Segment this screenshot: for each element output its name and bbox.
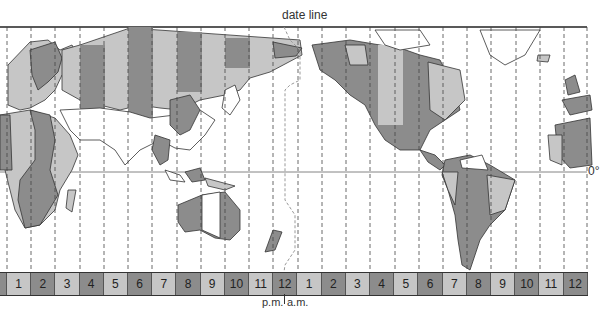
new-guinea xyxy=(205,178,235,190)
pm-am-divider xyxy=(284,294,285,304)
hour-cell: 9 xyxy=(201,273,225,295)
hour-cell: 5 xyxy=(394,273,418,295)
time-zone-map xyxy=(0,0,611,313)
hour-cell: 12 xyxy=(564,273,588,295)
eastern-canada xyxy=(428,62,465,120)
hour-cell: 5 xyxy=(104,273,128,295)
hour-cell: 11 xyxy=(249,273,273,295)
southeast-asia xyxy=(152,135,170,165)
zone-band xyxy=(128,27,153,127)
hour-cell: 7 xyxy=(443,273,467,295)
hour-cell: 4 xyxy=(370,273,394,295)
hour-cell: 4 xyxy=(80,273,104,295)
new-zealand xyxy=(265,230,282,252)
hour-cell: 10 xyxy=(225,273,249,295)
europe-east-edge xyxy=(562,95,592,115)
greenland xyxy=(480,30,540,65)
hour-cell: 1 xyxy=(297,273,321,295)
zone-band xyxy=(225,38,250,68)
zone-band xyxy=(378,45,403,125)
date-line-label: date line xyxy=(282,8,327,22)
hour-cell: 8 xyxy=(176,273,200,295)
landmasses xyxy=(0,27,592,270)
hour-cell: 6 xyxy=(128,273,152,295)
south-america-west xyxy=(442,172,458,205)
hour-cell: 10 xyxy=(515,273,539,295)
equator-label: 0° xyxy=(588,164,599,178)
africa-west-band xyxy=(0,115,12,170)
hour-cell: 2 xyxy=(31,273,55,295)
uk xyxy=(565,75,580,95)
hour-cell: 6 xyxy=(418,273,442,295)
hour-bar: 1 2 3 4 5 6 7 8 9 10 11 12 1 2 3 4 5 6 7… xyxy=(0,272,588,296)
hour-cell: 3 xyxy=(55,273,79,295)
zone-band xyxy=(177,32,202,92)
hour-cell-partial xyxy=(0,273,7,295)
indonesia-east xyxy=(185,168,205,182)
madagascar xyxy=(66,190,76,212)
hour-cell: 7 xyxy=(152,273,176,295)
zone-band xyxy=(80,45,105,110)
hour-cell: 11 xyxy=(539,273,563,295)
hour-cell: 2 xyxy=(322,273,346,295)
hour-cell: 12 xyxy=(273,273,297,295)
am-label: a.m. xyxy=(287,296,308,308)
central-america xyxy=(420,150,445,170)
pm-label: p.m. xyxy=(262,296,283,308)
hour-cell: 9 xyxy=(491,273,515,295)
africa-west-edge xyxy=(548,135,562,165)
hour-cell: 3 xyxy=(346,273,370,295)
australia-central xyxy=(202,192,220,238)
hour-cell: 1 xyxy=(7,273,31,295)
hour-cell: 8 xyxy=(467,273,491,295)
iceland xyxy=(537,55,550,62)
